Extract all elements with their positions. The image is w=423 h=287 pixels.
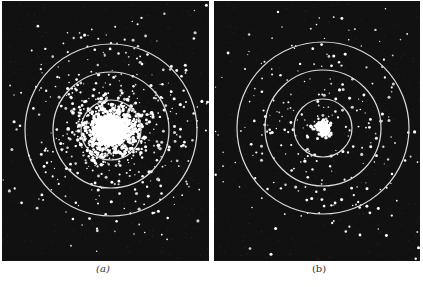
panel-b <box>214 1 420 261</box>
scatter-plot-a <box>2 1 209 261</box>
scatter-plot-b <box>214 1 420 261</box>
caption-b: (b) <box>304 263 334 274</box>
panel-a <box>2 1 209 261</box>
caption-a: (a) <box>88 263 118 274</box>
